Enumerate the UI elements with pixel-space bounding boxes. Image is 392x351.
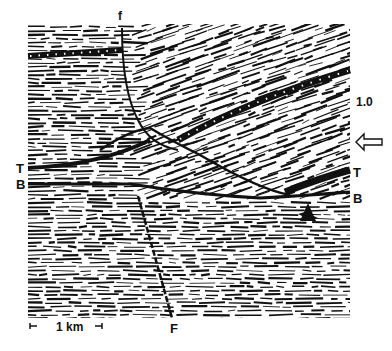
reflector-segment [71, 171, 94, 172]
reflector-segment [117, 303, 140, 304]
reflector-segment [277, 139, 288, 143]
reflector-segment [72, 146, 81, 147]
reflector-segment [69, 126, 95, 127]
reflector-segment [194, 278, 203, 279]
reflector-segment [251, 48, 267, 55]
reflector-segment [142, 20, 163, 26]
reflector-segment [28, 203, 54, 204]
reflector-segment [186, 286, 214, 287]
reflector-segment [256, 27, 264, 31]
reflector-segment [338, 137, 355, 143]
reflector-segment [317, 202, 336, 203]
reflector-segment [42, 130, 50, 131]
reflector-segment [28, 94, 44, 95]
time-tick-label: 1.0 [356, 96, 373, 108]
reflector-segment [64, 42, 83, 43]
reflector-segment [250, 226, 266, 227]
reflector-segment [309, 250, 323, 251]
reflector-segment [195, 133, 211, 138]
seismic-section [0, 0, 392, 351]
reflector-segment [46, 150, 66, 151]
reflector-segment [108, 195, 115, 196]
reflector-segment [138, 35, 152, 39]
reflector-segment [291, 202, 311, 203]
reflector-segment [166, 52, 187, 58]
reflector-segment [228, 310, 235, 311]
reflector-segment [306, 234, 319, 235]
reflector-segment [252, 60, 272, 66]
reflector-segment [347, 126, 371, 135]
scale-bar-label: 1 km [56, 321, 83, 333]
reflector-segment [162, 318, 179, 319]
reflector-segment [28, 186, 50, 187]
reflector-segment [225, 318, 242, 319]
reflector-segment [216, 274, 226, 275]
reflector-segment [253, 146, 266, 151]
reflector-segment [341, 242, 360, 243]
reflector-segment [192, 78, 205, 82]
reflector-segment [87, 202, 112, 203]
reflector-segment [56, 38, 68, 39]
reflector-segment [123, 42, 148, 43]
reflector-segment [304, 101, 320, 106]
reflector-segment [154, 218, 173, 219]
reflector-segment [277, 130, 302, 138]
reflector-segment [123, 270, 148, 271]
reflector-segment [104, 78, 114, 79]
reflector-segment [200, 18, 225, 26]
reflector-segment [146, 58, 158, 62]
reflector-segment [63, 290, 86, 291]
reflector-segment [112, 239, 138, 240]
reflector-segment [178, 43, 201, 50]
reflector-segment [338, 215, 345, 216]
reflector-segment [55, 234, 83, 235]
reflector-segment [310, 282, 333, 283]
fault-label-F: F [170, 322, 178, 335]
reflector-segment [185, 215, 202, 216]
reflector-segment [182, 23, 196, 27]
reflector-segment [254, 302, 273, 303]
reflector-segment [229, 84, 247, 90]
reflector-segment [214, 153, 221, 155]
reflector-segment [97, 174, 105, 175]
reflector-segment [28, 262, 37, 263]
reflector-segment [321, 286, 335, 287]
reflector-segment [242, 262, 267, 263]
reflector-segment [253, 230, 268, 231]
reflector-segment [349, 134, 361, 138]
reflector-segment [111, 222, 125, 223]
reflector-segment [168, 214, 181, 215]
reflector-segment [142, 290, 159, 291]
reflector-segment [28, 82, 39, 83]
reflector-segment [76, 178, 89, 179]
reflector-segment [169, 151, 179, 154]
reflector-segment [225, 294, 242, 295]
reflector-segment [214, 156, 225, 159]
reflector-segment [252, 154, 265, 159]
reflector-segment [64, 287, 73, 288]
reflector-segment [109, 318, 117, 319]
reflector-segment [41, 38, 50, 39]
reflector-segment [217, 271, 233, 272]
reflector-segment [126, 86, 148, 87]
reflector-segment [28, 266, 47, 267]
reflector-segment [168, 109, 175, 111]
reflector-segment [185, 71, 208, 79]
reflector-segment [114, 130, 135, 131]
reflector-segment [109, 95, 135, 96]
reflector-segment [138, 167, 159, 175]
reflector-segment [59, 71, 87, 72]
reflector-segment [133, 76, 142, 79]
reflector-segment [182, 38, 195, 42]
reflector-segment [57, 159, 67, 160]
reflector-segment [207, 231, 225, 232]
reflector-segment [136, 63, 160, 71]
reflector-segment [86, 218, 97, 219]
reflector-segment [326, 206, 352, 207]
reflector-segment [326, 46, 339, 51]
reflector-segment [82, 35, 108, 36]
reflector-segment [129, 290, 140, 291]
reflector-segment [211, 318, 223, 319]
reflector-segment [185, 31, 207, 39]
reflector-segment [285, 176, 304, 182]
